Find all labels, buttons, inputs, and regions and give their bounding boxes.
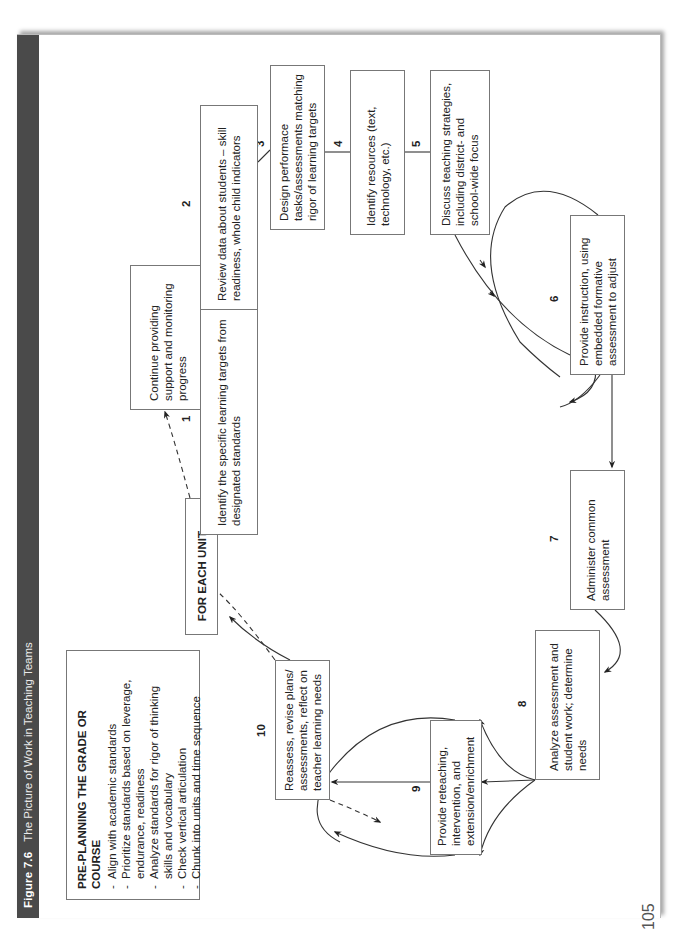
preplanning-item: Prioritize standards based on leverage, … — [119, 661, 147, 889]
rotated-page: Figure 7.6 The Picture of Work in Teachi… — [0, 0, 675, 942]
step-box-3: Design performace tasks/assessments matc… — [270, 65, 325, 230]
preplanning-item: Analyze standards for rigor of thinking … — [147, 661, 175, 889]
step-text-2: Review data about students – skill readi… — [215, 114, 243, 301]
preplanning-item: Chunk into units and time sequence — [189, 661, 203, 889]
step-text-5: Discuss teaching strategies, including d… — [439, 79, 481, 226]
step-number-6: 6 — [548, 296, 560, 302]
step-number-9: 9 — [410, 786, 422, 792]
step-box-9: Provide reteaching, intervention, and ex… — [430, 720, 482, 855]
preplanning-title: PRE-PLANNING THE GRADE OR COURSE — [75, 661, 103, 889]
step-text-4: Identify resources (text, technology, et… — [364, 79, 392, 226]
page-number: 105 — [640, 903, 658, 930]
preplanning-item: Check vertical articulation — [175, 661, 189, 889]
step-box-7: Administer common assessment — [570, 470, 625, 610]
step-number-8: 8 — [516, 701, 528, 707]
step-box-5: Discuss teaching strategies, including d… — [430, 70, 490, 235]
step-text-7: Administer common assessment — [584, 479, 612, 601]
step-number-1: 1 — [180, 416, 192, 422]
step-box-1: Identify the specific learning targets f… — [200, 305, 258, 535]
step-number-4: 4 — [332, 141, 344, 147]
continue-support-box: Continue providing support and monitorin… — [130, 265, 205, 410]
step-number-7: 7 — [548, 536, 560, 542]
step-box-6: Provide instruction, using embedded form… — [570, 215, 625, 375]
preplanning-box: PRE-PLANNING THE GRADE OR COURSE Align w… — [66, 650, 200, 900]
continue-support-label: Continue providing support and monitorin… — [147, 274, 189, 401]
step-number-5: 5 — [410, 141, 422, 147]
step-number-10: 10 — [255, 724, 267, 737]
step-text-6: Provide instruction, using embedded form… — [577, 224, 619, 366]
step-number-2: 2 — [180, 201, 192, 207]
step-text-8: Analyze assessment and student work; det… — [547, 639, 589, 771]
preplanning-list: Align with academic standards Prioritize… — [105, 661, 203, 889]
step-box-4: Identify resources (text, technology, et… — [350, 70, 405, 235]
step-text-1: Identify the specific learning targets f… — [215, 314, 243, 526]
step-box-8: Analyze assessment and student work; det… — [535, 630, 600, 780]
preplanning-item: Align with academic standards — [105, 661, 119, 889]
step-box-10: Reassess, revise plans/ assessments, ref… — [275, 660, 330, 800]
step-text-3: Design performace tasks/assessments matc… — [277, 74, 319, 221]
step-text-10: Reassess, revise plans/ assessments, ref… — [282, 669, 324, 791]
step-box-2: Review data about students – skill readi… — [200, 105, 258, 310]
step-text-9: Provide reteaching, intervention, and ex… — [435, 729, 477, 846]
